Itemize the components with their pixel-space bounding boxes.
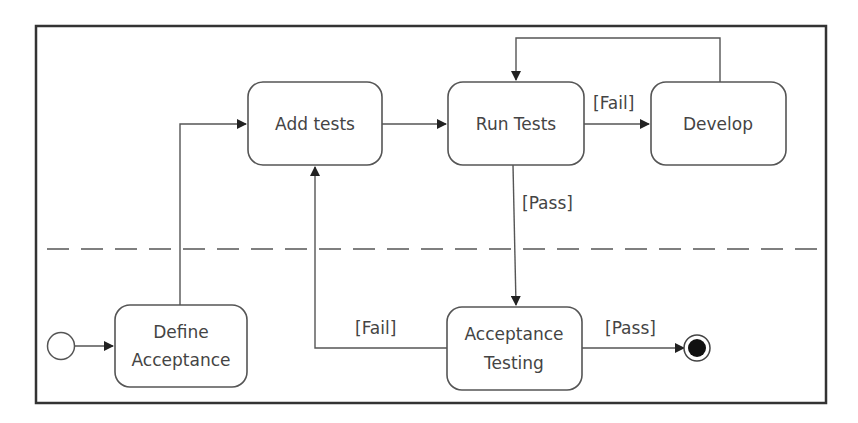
state-define-acceptance-label-1: Define xyxy=(153,322,209,342)
edge-run-to-acceptance xyxy=(513,165,516,305)
state-add-tests-label: Add tests xyxy=(275,114,355,134)
state-acceptance-testing: Acceptance Testing xyxy=(447,307,582,390)
state-define-acceptance: Define Acceptance xyxy=(115,305,247,387)
guard-run-pass: [Pass] xyxy=(522,193,573,213)
guard-acceptance-fail: [Fail] xyxy=(355,318,396,338)
activity-diagram: Add tests Run Tests Develop Define Accep… xyxy=(0,0,858,423)
state-run-tests-label: Run Tests xyxy=(476,114,556,134)
state-acceptance-testing-label-1: Acceptance xyxy=(465,324,564,344)
state-acceptance-testing-label-2: Testing xyxy=(483,353,544,373)
state-add-tests: Add tests xyxy=(248,82,382,165)
edge-define-to-add xyxy=(180,124,246,305)
initial-node-icon xyxy=(48,333,75,360)
state-run-tests: Run Tests xyxy=(448,82,584,165)
final-node-icon xyxy=(684,335,710,361)
guard-run-fail: [Fail] xyxy=(593,93,634,113)
guard-acceptance-pass: [Pass] xyxy=(605,318,656,338)
state-develop-label: Develop xyxy=(683,114,753,134)
edge-develop-to-run xyxy=(516,38,720,82)
state-develop: Develop xyxy=(651,82,786,165)
state-define-acceptance-label-2: Acceptance xyxy=(132,350,231,370)
